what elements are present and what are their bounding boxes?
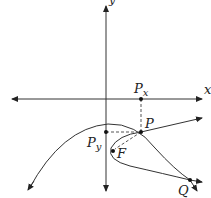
diagram-canvas: x y Px P Py F Q: [0, 0, 211, 198]
label-f: F: [116, 146, 127, 161]
point-p: [139, 130, 143, 134]
y-axis-label: y: [108, 0, 116, 7]
point-py: [104, 130, 108, 134]
label-q: Q: [178, 183, 189, 198]
point-f: [111, 149, 115, 153]
label-p: P: [144, 116, 154, 131]
parabola: [29, 124, 190, 189]
x-axis-label: x: [204, 82, 211, 97]
label-py: Py: [86, 135, 102, 152]
parabola-left-arrow: [28, 181, 34, 190]
label-px: Px: [133, 81, 149, 98]
point-q: [188, 178, 192, 182]
